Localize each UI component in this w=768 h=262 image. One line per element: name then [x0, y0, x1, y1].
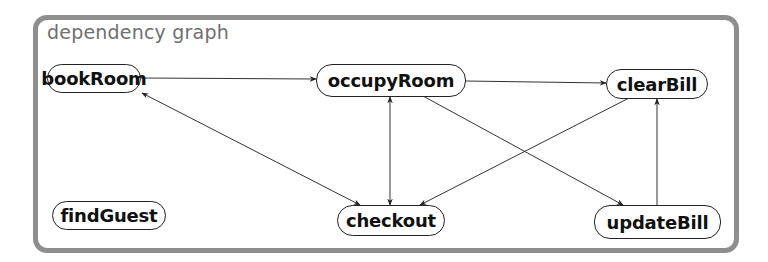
node-clearbill: clearBill: [606, 69, 708, 99]
node-updatebill: updateBill: [594, 205, 721, 239]
edge-clearbill-checkout: [420, 98, 629, 205]
node-findguest: findGuest: [52, 201, 166, 230]
edge-occupyroom-clearbill: [465, 81, 606, 83]
node-checkout: checkout: [337, 205, 445, 236]
edge-bookroom-checkout: [142, 93, 360, 205]
node-occupyroom: occupyRoom: [316, 64, 466, 97]
edge-bookroom-occupyroom: [141, 78, 316, 79]
node-bookroom: bookRoom: [47, 64, 141, 93]
